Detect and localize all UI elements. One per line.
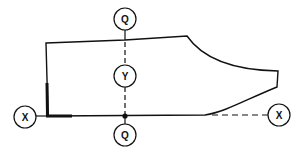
- marker-middle-y-label: Y: [122, 71, 129, 82]
- marker-top-q-label: Q: [121, 14, 129, 25]
- marker-bottom-q-label: Q: [121, 130, 129, 141]
- marker-left-x: X: [14, 106, 36, 128]
- marker-middle-y: Y: [114, 65, 136, 87]
- pattern-diagram: Q Y Q X X: [0, 0, 302, 160]
- marker-left-x-label: X: [22, 112, 29, 123]
- corner-mark: [47, 83, 72, 116]
- marker-right-x: X: [268, 104, 290, 126]
- marker-top-q: Q: [114, 8, 136, 30]
- intersection-dot: [122, 113, 127, 118]
- marker-bottom-q: Q: [114, 124, 136, 146]
- marker-right-x-label: X: [276, 110, 283, 121]
- pattern-outline: [46, 36, 278, 116]
